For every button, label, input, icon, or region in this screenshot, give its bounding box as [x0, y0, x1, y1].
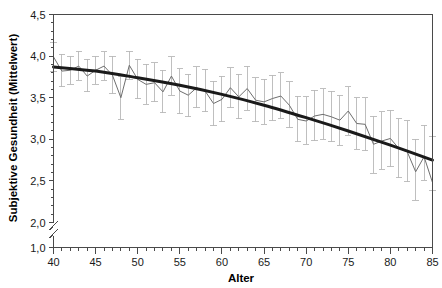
- y-axis-title: Subjektive Gesundheit (Mittelwert): [7, 34, 19, 223]
- x-tick-label: 55: [174, 256, 186, 268]
- y-tick-label: 4,0: [30, 50, 45, 62]
- y-tick-label: 2,5: [30, 175, 45, 187]
- x-axis-title: Alter: [228, 272, 255, 284]
- x-tick-label: 45: [89, 256, 101, 268]
- y-tick-label: 3,5: [30, 92, 45, 104]
- y-tick-label-break: 1,0: [30, 242, 45, 254]
- x-tick-label: 65: [258, 256, 270, 268]
- x-tick-label: 60: [216, 256, 228, 268]
- y-tick-label: 2,0: [30, 217, 45, 229]
- chart-canvas: 2,02,53,03,54,04,51,04045505560657075808…: [0, 0, 442, 288]
- y-tick-label: 4,5: [30, 9, 45, 21]
- x-tick-label: 50: [132, 256, 144, 268]
- y-tick-label: 3,0: [30, 133, 45, 145]
- figure-background: [0, 0, 442, 288]
- chart-figure: 2,02,53,03,54,04,51,04045505560657075808…: [0, 0, 442, 288]
- x-tick-label: 75: [342, 256, 354, 268]
- x-tick-label: 70: [300, 256, 312, 268]
- x-tick-label: 85: [426, 256, 438, 268]
- x-tick-label: 40: [47, 256, 59, 268]
- x-tick-label: 80: [384, 256, 396, 268]
